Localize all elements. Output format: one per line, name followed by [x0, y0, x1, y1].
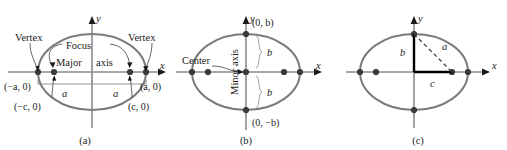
coord-plus-a-label: (a, 0): [140, 81, 161, 93]
dim-b-upper-label: b: [267, 47, 272, 58]
y-axis-arrowhead-b: [243, 16, 250, 24]
dim-a-left-label: a: [62, 88, 67, 99]
leader-focus-right-a: [110, 44, 130, 66]
y-axis-label-c: y: [417, 13, 423, 24]
leader-vertex-right-a: [146, 43, 152, 68]
covertex-dot-bottom-b: [243, 107, 249, 113]
coord-minus-c-label: (−c, 0): [14, 101, 41, 113]
focus-dot-left-b: [205, 69, 211, 75]
center-label-b: Center: [182, 55, 210, 66]
center-dot-b: [243, 69, 249, 75]
panel-a: Vertex Vertex Focus Major axis x y (−a, …: [0, 0, 170, 150]
minor-axis-label-b: Minor axis: [229, 49, 240, 95]
coord-plus-c-label: (c, 0): [128, 101, 149, 113]
covertex-dot-top-b: [243, 31, 249, 37]
coord-plus-b-label: (0, b): [252, 17, 274, 29]
y-axis-arrowhead-a: [89, 16, 96, 24]
panel-c: b c a x y (c): [340, 0, 507, 150]
dim-b-lower-label: b: [267, 87, 272, 98]
triangle-hypotenuse-a-c: [414, 34, 452, 72]
leader-arrow-minus-c-a: [52, 75, 56, 81]
major-axis-label-right-a: axis: [96, 57, 113, 68]
vertex-dot-left-c: [357, 69, 363, 75]
x-axis-label-b: x: [315, 60, 321, 71]
hypotenuse-a-label-c: a: [442, 41, 447, 52]
focus-dot-left-c: [373, 69, 379, 75]
y-axis-label-b: y: [249, 13, 255, 24]
x-axis-label-c: x: [491, 60, 497, 71]
covertex-dot-bottom-c: [411, 107, 417, 113]
focus-label-a: Focus: [66, 40, 91, 51]
coord-minus-a-label: (−a, 0): [4, 81, 31, 93]
panel-b: Center Minor axis (0, b) (0, −b) b b x y…: [168, 0, 340, 150]
leader-arrow-focus-right-a: [127, 62, 132, 68]
focus-dot-right-a: [127, 69, 133, 75]
x-axis-label-a: x: [159, 60, 165, 71]
vertex-label-right-a: Vertex: [128, 32, 156, 43]
y-axis-arrowhead-c: [411, 16, 418, 24]
vertex-dot-right-b: [297, 69, 303, 75]
panel-caption-b: (b): [240, 135, 253, 147]
vertex-label-left-a: Vertex: [15, 32, 43, 43]
dim-a-right-label: a: [113, 88, 118, 99]
brace-upper-b: [256, 36, 262, 68]
vertex-dot-right-c: [465, 69, 471, 75]
leader-arrow-focus-left-a: [50, 62, 56, 68]
focus-dot-left-a: [51, 69, 57, 75]
brace-lower-b: [256, 76, 262, 108]
coord-minus-b-label: (0, −b): [252, 117, 279, 129]
panel-caption-c: (c): [412, 135, 424, 147]
major-axis-label-left-a: Major: [56, 57, 82, 68]
ellipse-anatomy-figure: Vertex Vertex Focus Major axis x y (−a, …: [0, 0, 507, 150]
leg-c-label-c: c: [430, 78, 435, 89]
focus-dot-right-b: [281, 69, 287, 75]
panel-caption-a: (a): [79, 135, 91, 147]
leg-b-label-c: b: [400, 47, 405, 58]
leader-arrow-plus-c-a: [128, 75, 132, 81]
y-axis-label-a: y: [95, 13, 101, 24]
x-axis-arrowhead-c: [482, 69, 490, 76]
vertex-dot-left-b: [189, 69, 195, 75]
leader-vertex-left-a: [30, 43, 37, 68]
